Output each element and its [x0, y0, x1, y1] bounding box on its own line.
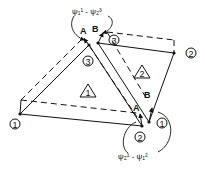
node-label: 3 [85, 57, 90, 67]
edge-label-a: A [133, 103, 140, 113]
element-1-dashed [21, 38, 137, 117]
edge-label-b: B [92, 24, 99, 34]
svg-text:1: 1 [85, 88, 90, 98]
element-1-solid [20, 45, 142, 126]
element-2-label: 2 [134, 65, 150, 79]
edge-label-a: A [80, 26, 87, 36]
node-label: 1 [12, 120, 17, 130]
node-label: 1 [159, 119, 164, 129]
annotation-top: ψ₁¹ - ψ₂³ [72, 7, 102, 16]
edge-label-b: B [144, 90, 151, 100]
node-label: 2 [137, 133, 142, 143]
svg-text:2: 2 [139, 69, 144, 79]
finite-element-diagram: 1 2 1 3 2 2 1 3 A B A B ψ₁¹ - ψ₂³ ψ₂¹ - … [0, 0, 205, 170]
annotation-bottom: ψ₂¹ - ψ₁² [118, 152, 148, 161]
node-label: 2 [188, 49, 193, 59]
node-label: 3 [111, 36, 116, 46]
element-1-label: 1 [80, 84, 96, 98]
